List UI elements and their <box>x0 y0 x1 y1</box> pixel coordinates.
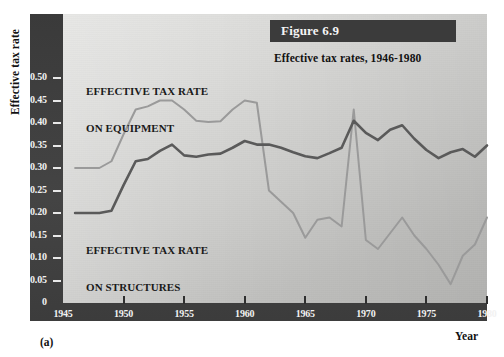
panel-letter: (a) <box>40 336 53 348</box>
figure-caption: Effective tax rates, 1946-1980 <box>274 52 421 64</box>
figure-number-banner: Figure 6.9 <box>270 20 456 42</box>
series-layer <box>0 0 504 357</box>
annotation-structures-line2: ON STRUCTURES <box>86 281 208 293</box>
figure-number-label: Figure 6.9 <box>270 23 339 39</box>
annotation-equipment-line2: ON EQUIPMENT <box>86 122 208 134</box>
annotation-equipment: EFFECTIVE TAX RATE ON EQUIPMENT <box>86 60 208 159</box>
annotation-structures: EFFECTIVE TAX RATE ON STRUCTURES <box>86 219 208 318</box>
annotation-structures-line1: EFFECTIVE TAX RATE <box>86 244 208 256</box>
annotation-equipment-line1: EFFECTIVE TAX RATE <box>86 85 208 97</box>
x-axis-title: Year <box>455 330 478 342</box>
figure-root: Effective tax rate 0.500.450.400.350.300… <box>0 0 504 357</box>
